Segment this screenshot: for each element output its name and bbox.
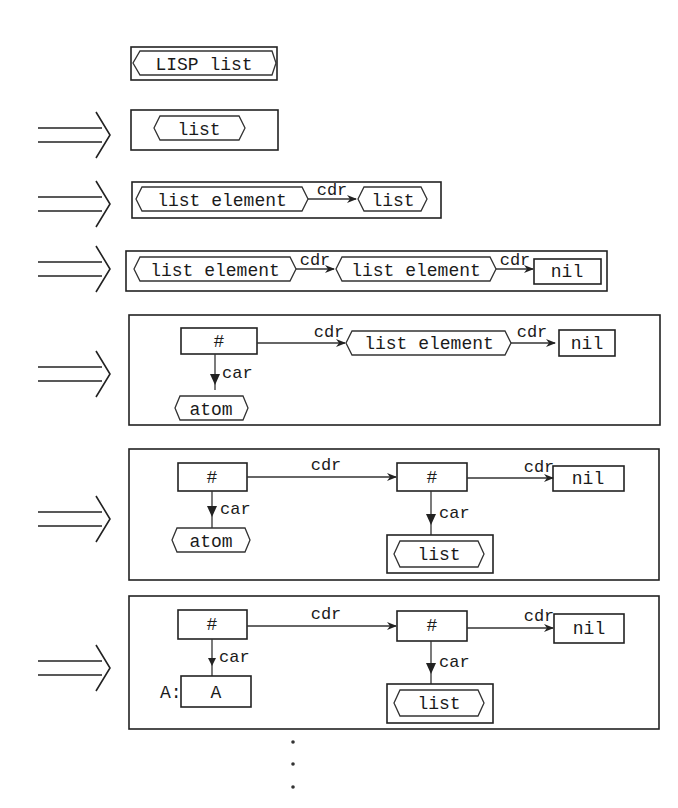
node-nil: nil (573, 619, 605, 639)
edge-label-cdr: cdr (317, 181, 348, 200)
atom-prefix-label: A: (160, 683, 182, 703)
edge-label-cdr: cdr (311, 605, 342, 624)
node-list: list (177, 120, 220, 140)
double-right-arrow-icon (38, 351, 110, 397)
edge-label-car: car (220, 500, 251, 519)
double-right-arrow-icon (38, 645, 110, 691)
lisp-list-diagram: LISP list list (0, 0, 678, 808)
node-nil: nil (572, 469, 604, 489)
edge-label-cdr: cdr (524, 607, 555, 626)
derivation-arrows (38, 112, 110, 691)
car-arrowhead-icon (210, 374, 220, 385)
edge-label-car: car (219, 648, 250, 667)
edge-label-car: car (222, 364, 253, 383)
car-arrowhead-icon (426, 663, 436, 674)
edge-label-cdr: cdr (314, 323, 345, 342)
start-node: LISP list (131, 47, 277, 80)
node-list: list (417, 545, 460, 565)
node-list-element: list element (150, 261, 280, 281)
step-4: # cdr list element cdr nil car atom (129, 315, 660, 425)
cons-marker: # (427, 468, 438, 488)
double-right-arrow-icon (38, 496, 110, 542)
step-1: list (131, 110, 278, 150)
car-arrowhead-icon (207, 506, 217, 517)
step-3: list element cdr list element cdr nil (126, 251, 607, 291)
edge-label-cdr: cdr (300, 251, 331, 270)
node-list-element: list element (364, 334, 494, 354)
node-atom-A: A (211, 683, 222, 703)
node-list-element: list element (351, 261, 481, 281)
cons-marker: # (427, 616, 438, 636)
edge-label-cdr: cdr (311, 456, 342, 475)
node-nil: nil (571, 334, 603, 354)
cons-marker: # (207, 468, 218, 488)
step-2: list element cdr list (132, 181, 441, 218)
car-arrowhead-icon (208, 658, 216, 666)
step-6: # cdr # cdr nil car A: A car list (129, 596, 659, 729)
edge-label-cdr: cdr (500, 251, 531, 270)
edge-label-cdr: cdr (517, 323, 548, 342)
edge-label-car: car (439, 653, 470, 672)
step-5: # cdr # cdr nil car atom car list (129, 449, 659, 580)
start-label: LISP list (155, 55, 252, 75)
node-atom: atom (189, 400, 232, 420)
double-right-arrow-icon (38, 112, 110, 158)
cons-marker: # (207, 615, 218, 635)
node-nil: nil (551, 262, 583, 282)
vertical-ellipsis-icon (291, 740, 295, 789)
node-list: list (371, 191, 414, 211)
double-right-arrow-icon (38, 246, 110, 292)
node-list: list (417, 694, 460, 714)
node-atom: atom (189, 532, 232, 552)
double-right-arrow-icon (38, 181, 110, 227)
car-arrowhead-icon (426, 514, 436, 525)
node-list-element: list element (157, 191, 287, 211)
edge-label-car: car (439, 504, 470, 523)
edge-label-cdr: cdr (524, 458, 555, 477)
cons-marker: # (214, 332, 225, 352)
